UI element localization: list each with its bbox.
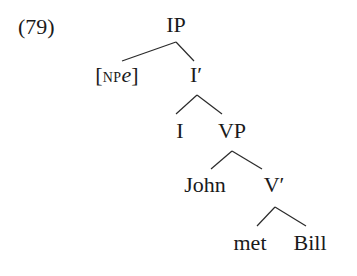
edge-ip-ibar [176,42,194,61]
edge-vp-john [211,151,232,169]
node-i-bar: I′ [190,62,202,88]
np-subscript: NP [103,70,122,85]
node-i: I [176,118,183,144]
edge-vbar-bill [275,207,306,226]
edge-vp-vbar [232,151,262,169]
node-met: met [234,230,267,256]
empty-category-e: e [122,62,132,87]
node-ip: IP [166,12,186,38]
bracket-close: ] [131,62,138,87]
node-bill: Bill [293,230,326,256]
edge-vbar-met [257,207,275,226]
node-v-bar: V′ [264,172,285,198]
edge-ibar-vp [197,95,222,114]
edge-ibar-i [176,95,197,114]
node-john: John [184,172,226,198]
node-np-empty: [NPe] [95,62,138,91]
node-vp: VP [218,118,246,144]
edge-ip-npe [122,42,176,61]
